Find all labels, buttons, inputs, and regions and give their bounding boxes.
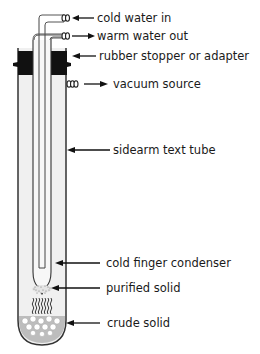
warm-water-out-barb	[62, 33, 70, 40]
label-vacuum-source: vacuum source	[113, 77, 201, 91]
label-cold-finger: cold finger condenser	[106, 256, 231, 270]
cold-finger-wall	[33, 40, 51, 294]
label-purified-solid: purified solid	[106, 281, 181, 295]
stopper-left	[18, 51, 34, 75]
sublimation-apparatus-diagram: cold water in warm water out rubber stop…	[0, 0, 260, 354]
arrow-purified-solid	[51, 285, 100, 291]
arrow-vacuum	[84, 81, 108, 87]
label-rubber-stopper: rubber stopper or adapter	[99, 49, 249, 63]
stopper-right	[50, 51, 67, 75]
arrow-cold-finger	[55, 260, 100, 266]
arrow-crude-solid	[66, 320, 100, 326]
cold-water-in-barb	[62, 15, 70, 22]
arrow-cold-water-in	[72, 15, 94, 21]
label-crude-solid: crude solid	[107, 316, 170, 330]
inlet-line-inner	[45, 22, 64, 25]
arrow-stopper	[72, 53, 96, 59]
inlet-line	[39, 15, 64, 18]
label-sidearm-tube: sidearm text tube	[113, 143, 216, 157]
label-cold-water-in: cold water in	[97, 11, 171, 25]
stopper-lip-left	[13, 62, 18, 67]
stopper-lip-right	[67, 62, 71, 67]
arrow-warm-water-out	[72, 33, 95, 39]
arrow-sidearm-tube	[67, 147, 110, 153]
label-warm-water-out: warm water out	[97, 29, 189, 43]
vacuum-sidearm-barb	[67, 81, 78, 88]
